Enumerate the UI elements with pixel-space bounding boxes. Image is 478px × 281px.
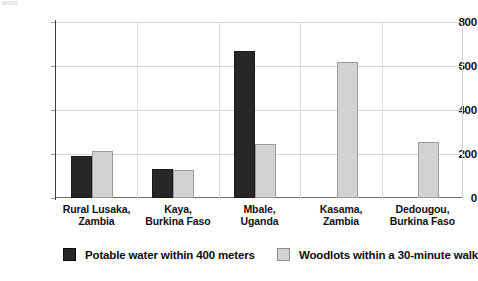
legend-item-potable-water[interactable]: Potable water within 400 meters — [63, 248, 255, 261]
x-label-line: Dedougou, — [382, 203, 463, 215]
bar-woodlots-kaya[interactable] — [173, 170, 194, 198]
gridline-600 — [56, 66, 463, 67]
x-label-line: Burkina Faso — [137, 215, 219, 227]
bar-potable-kaya[interactable] — [152, 169, 173, 198]
x-axis-labels: Rural Lusaka, Zambia Kaya, Burkina Faso … — [56, 203, 463, 237]
x-label-line: Kasama, — [300, 203, 382, 215]
chart-legend: Potable water within 400 meters Woodlots… — [0, 248, 477, 270]
legend-item-woodlots[interactable]: Woodlots within a 30-minute walk — [277, 248, 478, 261]
x-label-line: Zambia — [56, 215, 137, 227]
legend-swatch-dark-icon — [63, 248, 76, 261]
category-divider — [382, 22, 383, 198]
legend-label: Potable water within 400 meters — [85, 249, 255, 261]
x-label-line: Zambia — [300, 215, 382, 227]
bar-woodlots-rural-lusaka[interactable] — [92, 151, 113, 198]
gridline-800 — [56, 22, 463, 23]
x-label-rural-lusaka: Rural Lusaka, Zambia — [56, 203, 137, 228]
legend-divider — [0, 241, 477, 242]
category-divider — [300, 22, 301, 198]
bar-woodlots-mbale[interactable] — [255, 144, 276, 198]
x-label-line: Rural Lusaka, — [56, 203, 137, 215]
plot-area — [56, 22, 463, 198]
bar-woodlots-kasama[interactable] — [337, 62, 358, 198]
bar-potable-mbale[interactable] — [234, 51, 255, 198]
x-label-dedougou: Dedougou, Burkina Faso — [382, 203, 463, 228]
category-divider — [219, 22, 220, 198]
x-label-line: Uganda — [219, 215, 300, 227]
x-label-line: Burkina Faso — [382, 215, 463, 227]
x-label-line: Mbale, — [219, 203, 300, 215]
x-label-kaya: Kaya, Burkina Faso — [137, 203, 219, 228]
x-label-mbale: Mbale, Uganda — [219, 203, 300, 228]
scan-artifact — [2, 1, 18, 5]
x-label-line: Kaya, — [137, 203, 219, 215]
legend-label: Woodlots within a 30-minute walk — [299, 249, 478, 261]
legend-swatch-light-icon — [277, 248, 290, 261]
category-divider — [137, 22, 138, 198]
gridline-400 — [56, 110, 463, 111]
bar-potable-rural-lusaka[interactable] — [71, 156, 92, 198]
bar-woodlots-dedougou[interactable] — [418, 142, 439, 199]
x-label-kasama: Kasama, Zambia — [300, 203, 382, 228]
